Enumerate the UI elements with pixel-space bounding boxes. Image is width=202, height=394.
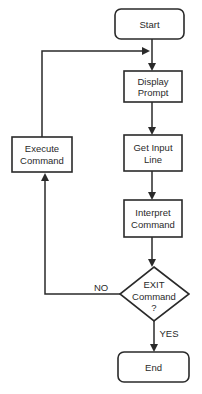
node-execute-command: Execute Command: [12, 137, 72, 172]
arrowhead-display: [148, 63, 156, 71]
flowchart: Start Display Prompt Get Input Line Inte…: [0, 0, 202, 394]
node-start: Start: [115, 9, 184, 39]
node-display-prompt: Display Prompt: [124, 71, 182, 102]
arrowhead-exit: [148, 259, 156, 267]
edge-label-no: NO: [94, 282, 108, 293]
arrowhead-loop: [142, 47, 150, 55]
node-interpret-label-1: Interpret: [135, 207, 171, 218]
node-exit-label-3: ?: [151, 302, 156, 313]
node-getinput-label-2: Line: [144, 154, 162, 165]
node-interpret-command: Interpret Command: [124, 200, 182, 237]
node-getinput-label-1: Get Input: [133, 142, 172, 153]
arrowhead-execute: [41, 173, 49, 181]
node-exit-decision: EXIT Command ?: [120, 267, 189, 321]
node-exit-label-1: EXIT: [143, 279, 164, 290]
arrowhead-getinput: [148, 127, 156, 135]
node-end-label: End: [145, 362, 162, 373]
node-interpret-label-2: Command: [131, 219, 175, 230]
node-execute-label-1: Execute: [25, 143, 59, 154]
node-start-label: Start: [139, 19, 159, 30]
node-display-label-1: Display: [137, 76, 168, 87]
node-execute-label-2: Command: [20, 155, 64, 166]
node-get-input-line: Get Input Line: [124, 135, 182, 171]
node-exit-label-2: Command: [132, 291, 176, 302]
edge-label-yes: YES: [159, 328, 178, 339]
node-end: End: [118, 352, 189, 382]
arrowhead-end: [150, 344, 158, 352]
arrowhead-interpret: [148, 192, 156, 200]
node-display-label-2: Prompt: [138, 87, 169, 98]
edge-exit-execute: [45, 180, 120, 294]
